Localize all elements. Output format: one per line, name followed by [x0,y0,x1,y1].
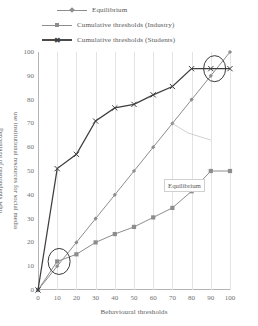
legend-line-industry [42,25,72,26]
x-tick-label: 80 [188,294,195,302]
x-tick-label: 20 [73,294,80,302]
x-tick-label: 90 [207,294,214,302]
y-tick-label: 50 [27,167,34,175]
y-tick-label: 100 [24,48,35,56]
y-tick-label: 10 [27,262,34,270]
square-marker-icon [94,240,98,244]
series-layer [38,52,230,290]
legend-line-students: ✖ [42,39,72,40]
x-tick-label: 30 [92,294,99,302]
x-tick-label: 70 [169,294,176,302]
legend-label-equilibrium: Equilibrium [92,6,127,14]
x-marker-icon: ✖ [54,37,61,44]
square-marker-icon [228,169,232,173]
square-marker-icon [132,225,136,229]
y-tick-label: 60 [27,143,34,151]
y-tick-label: 0 [31,286,35,294]
square-marker-icon [151,215,155,219]
legend-label-industry: Cumulative thresholds (Industry) [77,21,174,29]
y-tick-label: 40 [27,191,34,199]
diamond-marker-icon [69,7,75,13]
legend-item-industry: Cumulative thresholds (Industry) [42,19,174,31]
y-tick-label: 70 [27,119,34,127]
y-tick-label: 90 [27,72,34,80]
square-marker-icon [113,232,117,236]
y-tick-label: 80 [27,96,34,104]
x-tick-label: 100 [225,294,236,302]
legend-label-students: Cumulative thresholds (Students) [77,36,175,44]
equilibrium-callout: Equilibrium [164,179,205,192]
square-marker-icon [170,206,174,210]
callout-leader-line [172,123,210,140]
legend-item-students: ✖ Cumulative thresholds (Students) [42,34,175,46]
legend-item-equilibrium: Equilibrium [57,4,127,16]
y-axis-title-text: Percentage of respondents whouse institu… [0,112,19,229]
plot-area: 0102030405060708090100 01020304050607080… [38,52,230,290]
y-tick-label: 20 [27,238,34,246]
x-tick-label: 40 [111,294,118,302]
x-tick-label: 0 [36,294,40,302]
square-marker-icon [209,169,213,173]
x-axis-title: Behavioural thresholds [38,308,230,316]
square-marker-icon [55,23,59,27]
chart-figure: Equilibrium Cumulative thresholds (Indus… [0,0,258,326]
x-tick-label: 50 [131,294,138,302]
x-tick-label: 60 [150,294,157,302]
y-axis-title: Percentage of respondents whouse institu… [1,52,15,290]
series-diamond [36,50,232,292]
square-marker-icon [55,259,59,263]
chart-legend: Equilibrium Cumulative thresholds (Indus… [0,0,258,46]
x-tick-label: 10 [54,294,61,302]
y-tick-label: 30 [27,215,34,223]
square-marker-icon [74,252,78,256]
legend-line-equilibrium [57,10,87,11]
